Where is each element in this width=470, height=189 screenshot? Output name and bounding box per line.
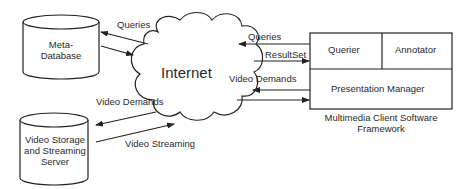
meta-database-label-line2: Database xyxy=(36,51,86,62)
edge-label-queries-left: Queries xyxy=(117,20,150,31)
edge-label-video-streaming: Video Streaming xyxy=(125,139,195,150)
edge-label-queries-right: Queries xyxy=(248,32,281,43)
client-caption: Multimedia Client Software Framework xyxy=(305,113,457,135)
querier-label: Querier xyxy=(328,45,360,56)
edge-label-video-demands-left: Video Demands xyxy=(96,97,163,108)
presentation-manager-label: Presentation Manager xyxy=(331,84,424,95)
video-server-label: Video Storage and Streaming Server xyxy=(22,135,88,168)
video-server-label-line3: Server xyxy=(22,157,88,168)
edge-label-resultset: ResultSet xyxy=(265,50,306,61)
annotator-label: Annotator xyxy=(395,45,436,56)
client-caption-line2: Framework xyxy=(305,124,457,135)
edge-label-video-demands-right: Video Demands xyxy=(229,74,296,85)
meta-database-label: Meta- Database xyxy=(36,40,86,62)
internet-label: Internet xyxy=(161,64,212,81)
